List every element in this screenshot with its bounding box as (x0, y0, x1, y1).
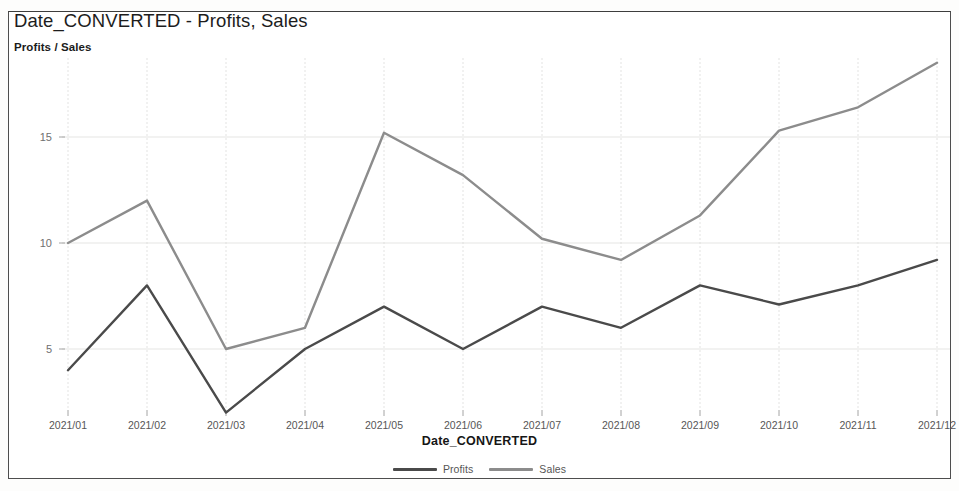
chart-legend: Profits Sales (0, 463, 959, 475)
legend-swatch-sales (489, 468, 533, 471)
legend-label-sales: Sales (539, 463, 566, 475)
chart-title: Date_CONVERTED - Profits, Sales (14, 10, 308, 32)
chart-frame (8, 11, 951, 479)
legend-label-profits: Profits (443, 463, 473, 475)
legend-item-profits[interactable]: Profits (393, 463, 473, 475)
x-axis-title: Date_CONVERTED (0, 434, 959, 448)
legend-swatch-profits (393, 468, 437, 471)
y-axis-title: Profits / Sales (14, 41, 92, 53)
legend-item-sales[interactable]: Sales (489, 463, 566, 475)
